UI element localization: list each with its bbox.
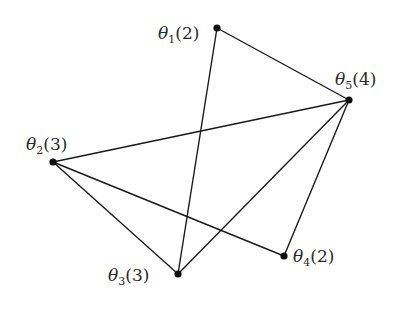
node-label-theta5: θ5(4) — [335, 69, 376, 92]
node-label-theta3: θ3(3) — [108, 265, 149, 288]
node-theta2 — [49, 158, 56, 165]
edge-theta2-theta4 — [53, 162, 284, 256]
node-subscript: 2 — [36, 144, 43, 157]
theta-symbol: θ — [158, 23, 168, 43]
node-weight: (2) — [175, 23, 199, 43]
theta-symbol: θ — [108, 265, 118, 285]
theta-symbol: θ — [293, 246, 303, 266]
node-weight: (2) — [310, 246, 334, 266]
node-subscript: 3 — [118, 275, 125, 288]
graph-diagram: θ1(2)θ2(3)θ3(3)θ4(2)θ5(4) — [0, 0, 411, 309]
theta-symbol: θ — [335, 69, 345, 89]
edges-group — [53, 28, 349, 274]
edge-theta1-theta5 — [217, 28, 349, 100]
edge-theta2-theta3 — [53, 162, 178, 274]
node-theta5 — [345, 96, 352, 103]
node-theta3 — [174, 270, 181, 277]
node-label-theta1: θ1(2) — [158, 23, 199, 46]
node-subscript: 5 — [345, 79, 352, 92]
node-theta4 — [280, 252, 287, 259]
node-label-theta4: θ4(2) — [293, 246, 334, 269]
node-weight: (4) — [352, 69, 376, 89]
edge-theta5-theta2 — [53, 100, 349, 162]
node-weight: (3) — [43, 134, 67, 154]
node-subscript: 1 — [168, 33, 175, 46]
theta-symbol: θ — [26, 134, 36, 154]
edge-theta5-theta4 — [284, 100, 349, 256]
labels-group: θ1(2)θ2(3)θ3(3)θ4(2)θ5(4) — [26, 23, 376, 288]
node-theta1 — [213, 24, 220, 31]
graph-svg: θ1(2)θ2(3)θ3(3)θ4(2)θ5(4) — [0, 0, 411, 309]
node-weight: (3) — [125, 265, 149, 285]
node-subscript: 4 — [303, 256, 310, 269]
edge-theta1-theta3 — [178, 28, 217, 274]
node-label-theta2: θ2(3) — [26, 134, 67, 157]
nodes-group — [49, 24, 352, 277]
